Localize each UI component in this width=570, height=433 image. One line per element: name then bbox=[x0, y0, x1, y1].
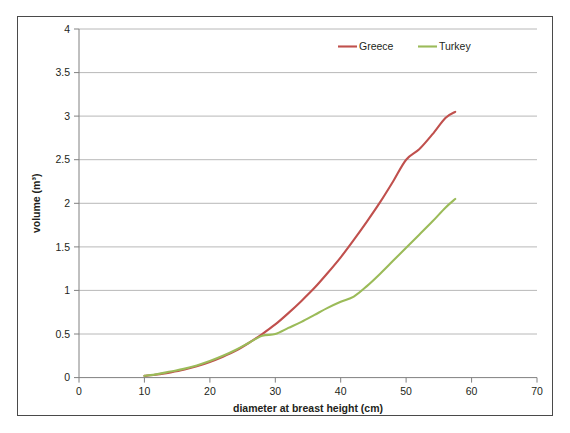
y-tick-label: 2 bbox=[64, 197, 70, 209]
x-tick-label: 20 bbox=[204, 385, 216, 397]
x-axis-tick-labels: 0 10 20 30 40 50 60 70 bbox=[76, 385, 543, 397]
y-tick-label: 0.5 bbox=[55, 328, 70, 340]
series-line-turkey bbox=[144, 199, 455, 376]
x-axis-title: diameter at breast height (cm) bbox=[233, 402, 383, 414]
y-tick-label: 2.5 bbox=[55, 153, 70, 165]
y-axis-tick-labels: 0 0.5 1 1.5 2 2.5 3 3.5 4 bbox=[55, 23, 70, 384]
x-tick-label: 40 bbox=[335, 385, 347, 397]
x-tick-label: 50 bbox=[400, 385, 412, 397]
y-tick-label: 3 bbox=[64, 110, 70, 122]
y-tick-label: 1 bbox=[64, 284, 70, 296]
y-axis-ticks bbox=[74, 29, 79, 378]
x-tick-label: 60 bbox=[466, 385, 478, 397]
y-tick-label: 3.5 bbox=[55, 66, 70, 78]
figure-root: 0 0.5 1 1.5 2 2.5 3 3.5 4 0 10 20 30 40 … bbox=[0, 0, 570, 433]
y-tick-label: 0 bbox=[64, 371, 70, 383]
y-tick-label: 1.5 bbox=[55, 241, 70, 253]
line-chart: 0 0.5 1 1.5 2 2.5 3 3.5 4 0 10 20 30 40 … bbox=[0, 0, 570, 433]
x-axis-ticks bbox=[79, 378, 537, 383]
series-lines bbox=[144, 112, 455, 376]
gridlines-horizontal bbox=[79, 29, 537, 334]
y-axis-title: volume (m³) bbox=[30, 174, 42, 234]
y-tick-label: 4 bbox=[64, 23, 70, 35]
legend-label-turkey: Turkey bbox=[439, 40, 471, 52]
legend-label-greece: Greece bbox=[359, 40, 394, 52]
x-tick-label: 10 bbox=[139, 385, 151, 397]
x-tick-label: 30 bbox=[269, 385, 281, 397]
chart-legend: Greece Turkey bbox=[338, 40, 471, 52]
x-tick-label: 0 bbox=[76, 385, 82, 397]
x-tick-label: 70 bbox=[531, 385, 543, 397]
